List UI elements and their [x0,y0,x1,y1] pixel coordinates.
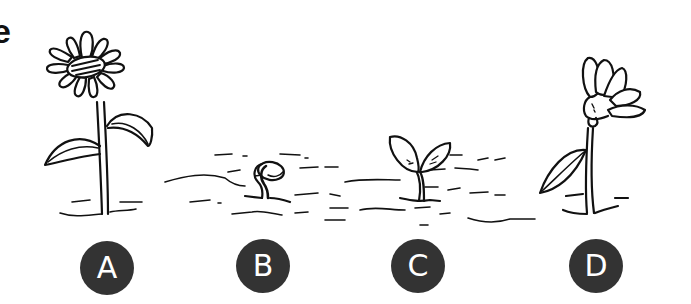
flower-a-illustration [45,32,152,216]
sprouting-seed-b-illustration [245,160,290,202]
soil-lines [165,154,535,225]
stage-label-d: D [569,239,623,293]
stage-label-a: A [80,241,134,295]
flower-d-illustration [540,58,645,214]
stage-label-c: C [391,239,445,293]
stage-label-b: B [236,239,290,293]
